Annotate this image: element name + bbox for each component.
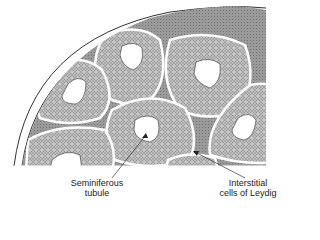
label-line: Seminiferous xyxy=(62,178,132,188)
label-interstitial-cells-leydig: Interstitial cells of Leydig xyxy=(210,178,286,198)
label-line: cells of Leydig xyxy=(210,188,286,198)
label-seminiferous-tubule: Seminiferous tubule xyxy=(62,178,132,198)
tubule-left xyxy=(36,60,109,123)
tubule-bottom-right xyxy=(166,154,218,170)
tubule-bottom-left xyxy=(26,128,114,170)
label-line: tubule xyxy=(62,188,132,198)
label-line: Interstitial xyxy=(210,178,286,188)
